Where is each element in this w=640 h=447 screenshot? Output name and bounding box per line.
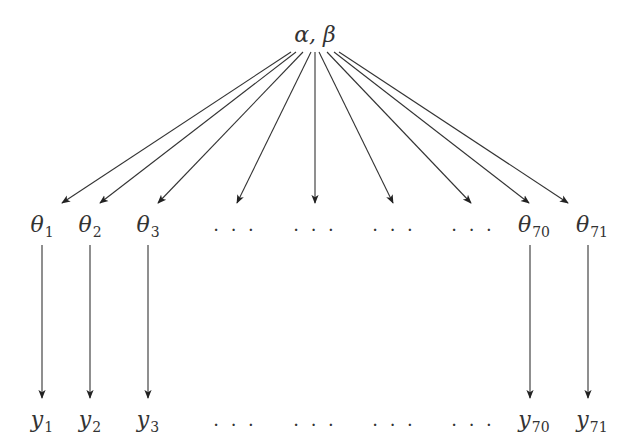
y-ellipsis: · · · [213, 416, 257, 434]
y-ellipsis: · · · [451, 416, 495, 434]
theta-ellipsis: · · · [451, 221, 495, 239]
theta-ellipsis: · · · [372, 221, 416, 239]
theta-symbol: θ [518, 212, 531, 237]
theta-symbol: θ [136, 212, 149, 237]
y-subscript: 3 [150, 419, 159, 435]
y-symbol: y [518, 407, 530, 432]
y-node-2: y2 [79, 409, 101, 434]
theta-symbol: θ [78, 212, 91, 237]
theta-subscript: 2 [93, 224, 102, 240]
edge-root-to-theta [100, 52, 296, 203]
y-symbol: y [576, 407, 588, 432]
y-node-71: y71 [576, 409, 607, 434]
edge-root-to-theta [158, 52, 303, 203]
theta-node-1: θ1 [30, 214, 53, 239]
y-node-1: y1 [31, 409, 53, 434]
theta-ellipsis: · · · [293, 221, 337, 239]
theta-node-2: θ2 [78, 214, 101, 239]
hierarchical-model-diagram: α, β θ1θ2θ3· · ·· · ·· · ·· · ·θ70θ71 y1… [0, 0, 640, 447]
theta-symbol: θ [576, 212, 589, 237]
theta-node-70: θ70 [518, 214, 550, 239]
y-subscript: 70 [532, 419, 550, 435]
y-ellipsis: · · · [293, 416, 337, 434]
y-subscript: 2 [92, 419, 101, 435]
y-node-3: y3 [137, 409, 159, 434]
edge-root-to-theta [62, 52, 291, 203]
y-subscript: 71 [590, 419, 608, 435]
y-symbol: y [79, 407, 91, 432]
edge-root-to-theta [339, 52, 568, 203]
theta-node-3: θ3 [136, 214, 159, 239]
root-node-alpha-beta: α, β [294, 24, 336, 46]
edge-root-to-theta [327, 52, 471, 203]
theta-subscript: 3 [151, 224, 160, 240]
root-label: α, β [294, 22, 336, 47]
y-symbol: y [137, 407, 149, 432]
y-node-70: y70 [518, 409, 549, 434]
theta-symbol: θ [30, 212, 43, 237]
theta-node-71: θ71 [576, 214, 608, 239]
y-ellipsis: · · · [372, 416, 416, 434]
theta-subscript: 1 [45, 224, 54, 240]
theta-subscript: 70 [532, 224, 550, 240]
edge-root-to-theta [319, 52, 393, 203]
edge-root-to-theta [334, 52, 529, 203]
y-subscript: 1 [44, 419, 53, 435]
edge-root-to-theta [237, 52, 311, 203]
y-symbol: y [31, 407, 43, 432]
theta-ellipsis: · · · [213, 221, 257, 239]
theta-subscript: 71 [590, 224, 608, 240]
